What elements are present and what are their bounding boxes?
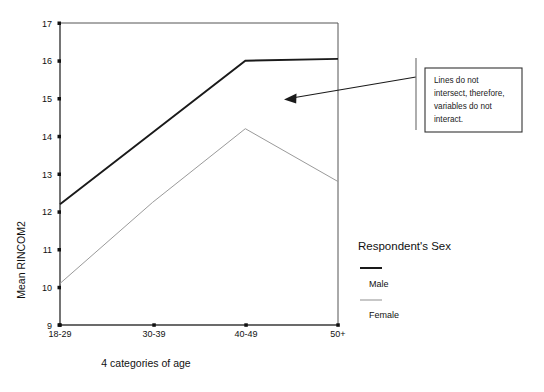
chart-canvas: 17 16 15 14 13 12 11 10 9 18-29 30-39 40…	[0, 0, 544, 392]
y-tick-mark	[58, 135, 62, 139]
y-tick-label: 16	[42, 56, 52, 66]
x-tick-mark	[244, 323, 248, 327]
plot-frame	[60, 23, 338, 325]
legend-title: Respondent's Sex	[358, 240, 451, 252]
x-tick-mark	[336, 323, 340, 327]
annotation-box: Lines do not intersect, therefore, varia…	[425, 68, 522, 132]
y-tick-label: 12	[42, 207, 52, 217]
x-tick-label: 50+	[330, 329, 345, 339]
x-tick-label: 40-49	[234, 329, 257, 339]
y-tick-label: 14	[42, 132, 52, 142]
x-tick-mark	[58, 323, 62, 327]
annotation-arrow	[284, 58, 416, 130]
annotation-line-1: Lines do not	[434, 76, 479, 85]
x-axis-title: 4 categories of age	[101, 357, 190, 369]
x-axis-tick-labels: 18-29 30-39 40-49 50+	[48, 329, 345, 339]
y-axis-title: Mean RINCOM2	[15, 221, 27, 299]
legend-label-male: Male	[369, 279, 389, 289]
x-tick-label: 18-29	[48, 329, 71, 339]
annotation-line-2: intersect, therefore,	[434, 89, 505, 98]
legend-item-male[interactable]: Male	[360, 268, 389, 289]
annotation-arrow-shaft	[292, 77, 416, 98]
y-tick-label: 17	[42, 19, 52, 29]
annotation-arrow-head	[284, 93, 297, 103]
y-tick-mark	[58, 22, 62, 26]
legend: Respondent's Sex Male Female	[358, 240, 451, 320]
y-tick-label: 13	[42, 170, 52, 180]
y-tick-mark	[58, 248, 62, 252]
y-axis-tick-labels: 17 16 15 14 13 12 11 10 9	[42, 19, 52, 331]
y-tick-mark	[58, 173, 62, 177]
y-tick-mark	[58, 59, 62, 63]
legend-label-female: Female	[369, 310, 399, 320]
x-tick-label: 30-39	[142, 329, 165, 339]
y-tick-mark	[58, 210, 62, 214]
y-tick-mark	[58, 97, 62, 101]
line-chart: 17 16 15 14 13 12 11 10 9 18-29 30-39 40…	[0, 0, 544, 392]
x-tick-mark	[152, 323, 156, 327]
y-tick-mark	[58, 286, 62, 290]
annotation-line-3: variables do not	[434, 102, 493, 111]
series-line-male	[60, 59, 338, 204]
y-tick-label: 10	[42, 283, 52, 293]
legend-item-female[interactable]: Female	[360, 300, 399, 320]
series-line-female	[60, 129, 338, 284]
y-tick-label: 11	[43, 245, 52, 255]
y-tick-label: 15	[42, 94, 52, 104]
annotation-line-4: interact.	[434, 115, 463, 124]
